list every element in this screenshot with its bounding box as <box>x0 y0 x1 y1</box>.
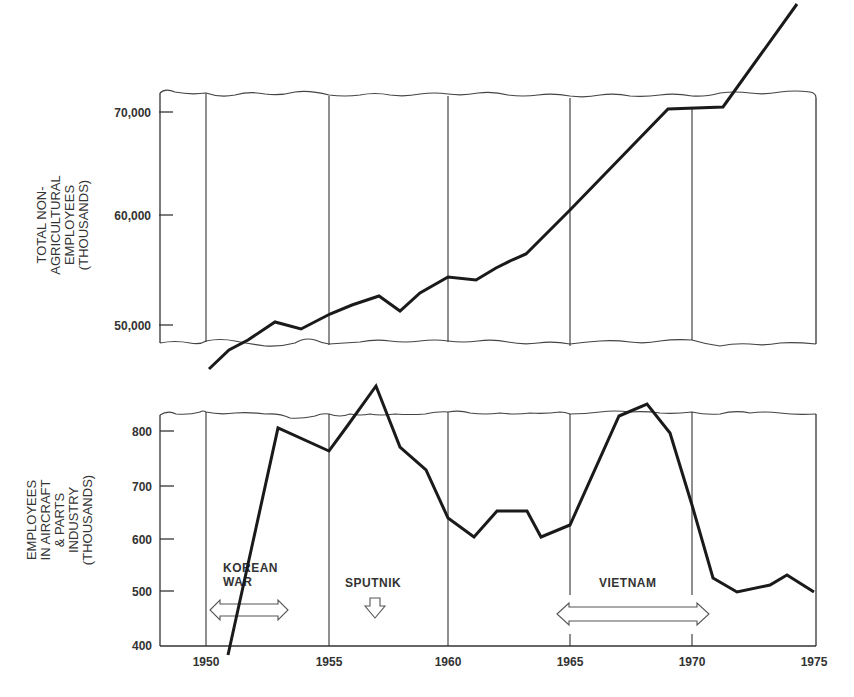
top-panel: TOTAL NON- AGRICULTURAL EMPLOYEES (THOUS… <box>34 4 816 369</box>
top-tick-60000: 60,000 <box>114 209 151 223</box>
bottom-panel: EMPLOYEES IN AIRCRAFT & PARTS INDUSTRY (… <box>24 386 828 669</box>
bottom-tick-800: 800 <box>132 425 152 439</box>
top-y-axis-title: TOTAL NON- AGRICULTURAL EMPLOYEES (THOUS… <box>34 175 91 274</box>
annotation-korean-war-line2: WAR <box>223 575 253 589</box>
bottom-y-axis-title: EMPLOYEES IN AIRCRAFT & PARTS INDUSTRY (… <box>24 475 95 565</box>
annotation-korean-war-line1: KOREAN <box>223 561 278 575</box>
svg-text:(THOUSANDS): (THOUSANDS) <box>80 475 95 565</box>
svg-text:IN AIRCRAFT: IN AIRCRAFT <box>38 479 53 560</box>
top-panel-break-top <box>160 90 816 98</box>
x-tick-1975: 1975 <box>801 655 828 669</box>
chart-canvas: TOTAL NON- AGRICULTURAL EMPLOYEES (THOUS… <box>0 0 854 697</box>
x-tick-1965: 1965 <box>557 655 584 669</box>
bottom-panel-break-top <box>160 411 816 418</box>
x-tick-1955: 1955 <box>316 655 343 669</box>
korean-war-span-arrow-icon <box>210 600 288 620</box>
svg-text:AGRICULTURAL: AGRICULTURAL <box>48 175 63 274</box>
top-tick-50000: 50,000 <box>114 319 151 333</box>
bottom-series-line <box>228 386 814 655</box>
svg-text:& PARTS: & PARTS <box>52 492 67 547</box>
x-tick-1950: 1950 <box>193 655 220 669</box>
top-panel-break-bottom <box>160 339 816 346</box>
annotation-sputnik: SPUTNIK <box>345 576 401 590</box>
bottom-tick-600: 600 <box>132 533 152 547</box>
svg-text:EMPLOYEES: EMPLOYEES <box>62 185 77 266</box>
annotation-vietnam: VIETNAM <box>599 576 657 590</box>
bottom-tick-400: 400 <box>132 639 152 653</box>
svg-text:EMPLOYEES: EMPLOYEES <box>24 480 39 561</box>
svg-text:TOTAL NON-: TOTAL NON- <box>34 186 49 263</box>
top-series-line <box>209 4 797 369</box>
bottom-tick-700: 700 <box>132 480 152 494</box>
svg-text:(THOUSANDS): (THOUSANDS) <box>76 180 91 270</box>
top-tick-70000: 70,000 <box>114 106 151 120</box>
bottom-tick-marks <box>160 431 174 591</box>
x-tick-1970: 1970 <box>679 655 706 669</box>
top-tick-marks <box>159 112 173 325</box>
bottom-tick-500: 500 <box>132 585 152 599</box>
svg-text:INDUSTRY: INDUSTRY <box>66 487 81 554</box>
top-year-gridlines <box>206 94 692 346</box>
x-tick-1960: 1960 <box>435 655 462 669</box>
vietnam-span-arrow-icon <box>557 603 709 625</box>
sputnik-down-arrow-icon <box>365 598 385 618</box>
